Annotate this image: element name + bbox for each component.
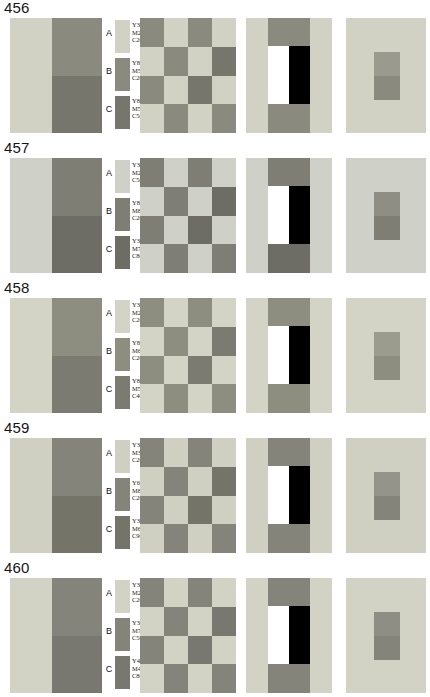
checkerboard-cell — [140, 216, 164, 245]
checkerboard-cell — [164, 384, 188, 413]
legend-entry-label: C — [104, 105, 114, 114]
legend-entry: AY30M20C50 — [104, 160, 144, 193]
checkerboard-cell — [212, 47, 236, 76]
legend-entry-label: A — [104, 589, 114, 598]
panel-checkerboard — [140, 158, 236, 273]
split-field-right-bottom — [52, 216, 102, 273]
split-field-right-top — [52, 18, 102, 76]
checkerboard-cell — [164, 327, 188, 356]
panel-bar-contrast — [246, 438, 332, 553]
bar-panel-band-bottom — [268, 524, 310, 553]
legend-entry: CY30M60C90 — [104, 516, 144, 549]
legend-entry-label: C — [104, 245, 114, 254]
bar-panel-white-bar — [268, 46, 289, 104]
checkerboard-cell — [212, 607, 236, 636]
figure-row: 460AY30M20C20BY30M70C50CY40M40C80 — [0, 560, 430, 697]
color-legend: AY30M20C50BY80M80C20CY30M70C80 — [104, 158, 144, 273]
bar-panel-black-bar — [289, 46, 310, 104]
split-field-right-bottom — [52, 496, 102, 553]
legend-entry: BY80M80C20 — [104, 198, 144, 231]
checkerboard-cell — [212, 356, 236, 385]
legend-entry-label: B — [104, 627, 114, 636]
checkerboard-cell — [212, 187, 236, 216]
legend-color-swatch — [115, 198, 130, 231]
checkerboard-cell — [188, 496, 212, 525]
panel-bar-contrast — [246, 578, 332, 693]
checkerboard-cell — [164, 664, 188, 693]
row-number-label: 457 — [4, 140, 30, 155]
legend-entry: CY80M50C50 — [104, 96, 144, 129]
checkerboard-cell — [140, 438, 164, 467]
panel-patch-on-field — [346, 18, 426, 133]
checkerboard-cell — [212, 384, 236, 413]
checkerboard-cell — [164, 244, 188, 273]
figure-row: 459AY30M30C20BY60M80C20CY30M60C90 — [0, 420, 430, 560]
checkerboard-cell — [140, 607, 164, 636]
patch-panel-patch-top — [374, 612, 400, 636]
checkerboard-cell — [164, 524, 188, 553]
checkerboard-cell — [212, 664, 236, 693]
bar-panel-white-bar — [268, 606, 289, 664]
bar-panel-band-top — [268, 298, 310, 326]
legend-entry-label: A — [104, 309, 114, 318]
panel-checkerboard — [140, 298, 236, 413]
checkerboard-cell — [212, 216, 236, 245]
legend-entry: BY80M60C20 — [104, 338, 144, 371]
checkerboard-cell — [188, 187, 212, 216]
split-field-right-bottom — [52, 636, 102, 693]
checkerboard-cell — [212, 467, 236, 496]
patch-panel-patch-top — [374, 472, 400, 496]
legend-entry: AY30M20C20 — [104, 580, 144, 613]
bar-panel-band-bottom — [268, 104, 310, 133]
legend-color-swatch — [115, 580, 130, 613]
legend-entry: AY30M20C20 — [104, 20, 144, 53]
checkerboard-cell — [188, 578, 212, 607]
legend-color-swatch — [115, 440, 130, 473]
legend-entry: BY60M80C20 — [104, 478, 144, 511]
legend-color-swatch — [115, 58, 130, 91]
checkerboard-cell — [188, 384, 212, 413]
panel-checkerboard — [140, 18, 236, 133]
bar-panel-white-bar — [268, 186, 289, 244]
legend-entry-label: A — [104, 449, 114, 458]
row-number-label: 459 — [4, 420, 30, 435]
patch-panel-patch-top — [374, 332, 400, 356]
checkerboard-cell — [140, 467, 164, 496]
checkerboard-cell — [188, 76, 212, 105]
bar-panel-band-bottom — [268, 384, 310, 413]
patch-panel-patch-bottom — [374, 496, 400, 520]
panel-bar-contrast — [246, 298, 332, 413]
checkerboard-cell — [140, 664, 164, 693]
checkerboard-cell — [212, 524, 236, 553]
checkerboard-cell — [164, 636, 188, 665]
panel-patch-on-field — [346, 158, 426, 273]
split-field-right-top — [52, 578, 102, 636]
bar-panel-black-bar — [289, 466, 310, 524]
legend-entry-label: C — [104, 665, 114, 674]
checkerboard-cell — [188, 524, 212, 553]
legend-color-swatch — [115, 96, 130, 129]
panel-checkerboard — [140, 438, 236, 553]
checkerboard-cell — [188, 18, 212, 47]
checkerboard-cell — [140, 384, 164, 413]
checkerboard-cell — [140, 76, 164, 105]
checkerboard-cell — [140, 158, 164, 187]
patch-panel-patch-bottom — [374, 216, 400, 240]
legend-entry-label: B — [104, 487, 114, 496]
legend-color-swatch — [115, 300, 130, 333]
checkerboard-cell — [188, 216, 212, 245]
checkerboard-cell — [212, 244, 236, 273]
panel-split-field — [10, 578, 102, 693]
bar-panel-black-bar — [289, 186, 310, 244]
checkerboard-cell — [188, 104, 212, 133]
legend-entry: AY30M20C20 — [104, 300, 144, 333]
checkerboard-cell — [164, 18, 188, 47]
legend-color-swatch — [115, 20, 130, 53]
split-field-right-top — [52, 158, 102, 216]
checkerboard-cell — [140, 496, 164, 525]
bar-panel-band-top — [268, 438, 310, 466]
split-field-right-top — [52, 438, 102, 496]
legend-color-swatch — [115, 338, 130, 371]
checkerboard-cell — [212, 327, 236, 356]
